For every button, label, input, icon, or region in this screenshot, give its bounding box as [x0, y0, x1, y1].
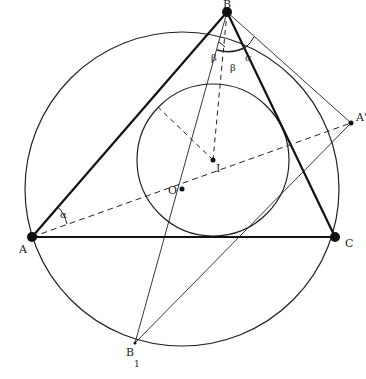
point-B1: [134, 342, 137, 345]
point-A: [27, 232, 37, 242]
label-alpha-A: α: [60, 209, 67, 220]
label-beta-left: β: [211, 52, 217, 63]
angle-arc-B-beta: [217, 47, 246, 52]
label-O: O: [168, 184, 177, 197]
line-B-A-prime: [227, 12, 351, 123]
point-C: [330, 232, 340, 242]
point-O: [180, 187, 185, 192]
point-I: [211, 158, 216, 163]
label-B1-sub: 1: [134, 359, 140, 369]
geometry-diagram: A B C A' O I B 1 α β β α: [0, 0, 366, 379]
dashed-B-I: [213, 12, 227, 160]
label-C: C: [345, 237, 353, 250]
side-AB: [32, 12, 227, 237]
label-beta-right: β: [230, 62, 236, 73]
angle-arc-B-alpha: [245, 37, 254, 48]
dashed-I-tangent-AB: [158, 107, 213, 160]
label-A: A: [18, 243, 28, 256]
label-B: B: [223, 0, 231, 11]
label-A-prime: A': [355, 111, 366, 124]
side-BC: [227, 12, 335, 237]
line-A-prime-B1: [135, 123, 351, 343]
label-B1: B: [126, 346, 134, 359]
label-alpha-B: α: [245, 52, 252, 63]
label-I: I: [216, 162, 220, 175]
point-A-prime: [349, 121, 354, 126]
